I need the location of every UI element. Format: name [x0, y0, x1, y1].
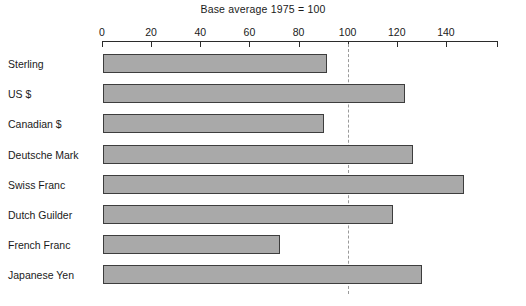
x-axis-tick-120: [397, 41, 398, 47]
category-label-canadian: Canadian $: [8, 118, 96, 130]
bar-japanese-yen: [103, 265, 422, 284]
x-axis-right-endcap: [497, 41, 498, 47]
bar-sterling: [103, 54, 327, 73]
x-axis-tick-40: [200, 41, 201, 47]
reference-line-100: [348, 44, 349, 294]
x-axis-tick-label-140: 140: [437, 26, 455, 38]
x-axis-tick-80: [299, 41, 300, 47]
x-axis-tick-label-20: 20: [145, 26, 157, 38]
category-label-swiss-franc: Swiss Franc: [8, 179, 96, 191]
chart-title: Base average 1975 = 100: [0, 3, 526, 15]
x-axis-tick-0: [102, 41, 103, 47]
x-axis-tick-20: [151, 41, 152, 47]
category-label-sterling: Sterling: [8, 58, 96, 70]
x-axis-tick-label-120: 120: [388, 26, 406, 38]
category-label-japanese-yen: Japanese Yen: [8, 269, 96, 281]
x-axis-tick-140: [446, 41, 447, 47]
bar-canadian: [103, 114, 324, 133]
category-label-us: US $: [8, 88, 96, 100]
bar-deutsche-mark: [103, 145, 413, 164]
category-label-dutch-guilder: Dutch Guilder: [8, 209, 96, 221]
x-axis-tick-label-100: 100: [339, 26, 357, 38]
bar-french-franc: [103, 235, 280, 254]
x-axis-tick-label-0: 0: [99, 26, 105, 38]
category-label-french-franc: French Franc: [8, 239, 96, 251]
bar-dutch-guilder: [103, 205, 393, 224]
x-axis-tick-label-60: 60: [244, 26, 256, 38]
x-axis-line: [102, 41, 498, 42]
category-label-deutsche-mark: Deutsche Mark: [8, 149, 96, 161]
bar-us: [103, 84, 405, 103]
x-axis-tick-label-40: 40: [194, 26, 206, 38]
horizontal-bar-chart: Base average 1975 = 100 0204060801001201…: [0, 0, 526, 306]
bar-swiss-franc: [103, 175, 464, 194]
x-axis-tick-60: [249, 41, 250, 47]
x-axis-tick-label-80: 80: [293, 26, 305, 38]
